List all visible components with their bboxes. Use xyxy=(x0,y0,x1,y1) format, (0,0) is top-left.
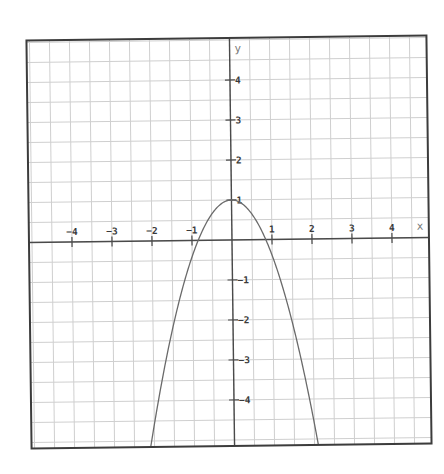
chart-frame: −4−3−2−112344321−1−2−3−4 x y xyxy=(26,36,431,449)
grid-line-vertical xyxy=(169,39,174,447)
x-tick-label: 1 xyxy=(269,223,275,234)
grid-line-horizontal xyxy=(30,337,430,342)
grid-line-horizontal xyxy=(29,217,429,222)
x-tick-label: 4 xyxy=(389,222,395,233)
grid-line-vertical xyxy=(129,39,134,447)
grid-line-horizontal xyxy=(31,417,431,422)
y-axis xyxy=(229,38,234,446)
grid-line-horizontal xyxy=(30,297,430,302)
grid-line-horizontal xyxy=(27,58,427,63)
grid-line-vertical xyxy=(289,37,294,445)
x-tick-label: −4 xyxy=(66,226,78,237)
grid-line-vertical xyxy=(89,40,94,448)
grid-line-vertical xyxy=(249,38,254,446)
plot-area: −4−3−2−112344321−1−2−3−4 x y xyxy=(26,36,431,449)
grid-line-horizontal xyxy=(28,137,428,142)
y-tick-label: 3 xyxy=(235,114,241,125)
grid-line-vertical xyxy=(409,36,414,444)
y-tick-label: −2 xyxy=(238,314,250,325)
x-tick-label: 2 xyxy=(309,223,315,234)
y-tick-label: −3 xyxy=(238,354,250,365)
grid-line-horizontal xyxy=(32,437,432,442)
grid-line-horizontal xyxy=(29,257,429,262)
x-tick-label: −1 xyxy=(186,224,198,235)
y-tick-label: 2 xyxy=(236,154,242,165)
grid-line-vertical xyxy=(209,38,214,446)
grid-line-horizontal xyxy=(28,177,428,182)
y-tick-label: 4 xyxy=(235,74,241,85)
y-axis-label: y xyxy=(234,42,241,55)
grid-line-vertical xyxy=(369,36,374,444)
x-axis xyxy=(29,237,429,242)
y-tick-label: −1 xyxy=(237,274,249,285)
grid-line-vertical xyxy=(329,37,334,445)
x-tick-label: −3 xyxy=(106,225,118,236)
grid-line-horizontal xyxy=(31,377,431,382)
x-tick-label: −2 xyxy=(146,225,158,236)
grid-line-horizontal xyxy=(27,97,427,102)
x-tick-label: 3 xyxy=(349,222,355,233)
x-axis-label: x xyxy=(417,220,424,233)
y-tick-label: −4 xyxy=(239,394,251,405)
grid-line-vertical xyxy=(49,40,54,448)
